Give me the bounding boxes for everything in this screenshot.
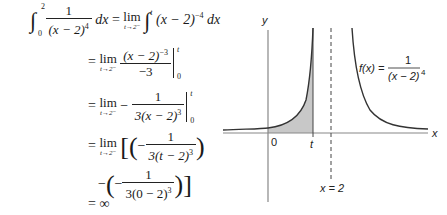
asymptote-label: x = 2	[319, 182, 344, 194]
function-denominator-exp: 4	[421, 68, 426, 77]
function-label: f(x) =	[359, 62, 385, 74]
function-graph: y x 0 t x = 2 f(x) = 1 (x − 2) 4	[0, 0, 447, 215]
shaded-area	[268, 28, 313, 133]
t-label: t	[310, 138, 314, 150]
function-denominator: (x − 2)	[388, 70, 420, 82]
x-axis-label: x	[431, 127, 438, 139]
origin-label: 0	[271, 136, 277, 148]
function-numerator: 1	[405, 54, 411, 66]
y-axis-label: y	[261, 14, 269, 26]
